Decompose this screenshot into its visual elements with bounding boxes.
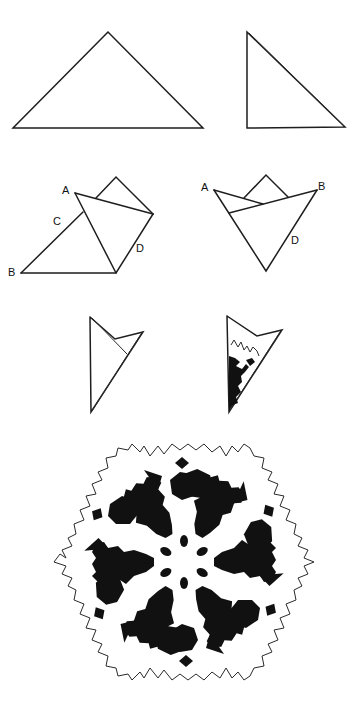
step-4-second-corner-fold (214, 175, 317, 271)
step-3-label-a: A (62, 185, 69, 196)
snowflake-folding-diagram (0, 0, 362, 718)
step-4-label-a: A (201, 182, 208, 193)
step-2-folded-right-triangle (247, 32, 345, 128)
step-3-first-corner-fold (21, 177, 153, 273)
step-7-finished-snowflake (47, 430, 321, 694)
step-3-label-b: B (8, 267, 15, 278)
step-1-large-triangle (13, 32, 203, 128)
step-4-label-b: B (318, 181, 325, 192)
step-4-label-d: D (291, 235, 299, 246)
step-3-label-c: C (53, 216, 61, 227)
step-5-folded-wedge (90, 317, 143, 412)
step-3-label-d: D (136, 243, 144, 254)
step-6-cut-wedge (227, 316, 282, 412)
